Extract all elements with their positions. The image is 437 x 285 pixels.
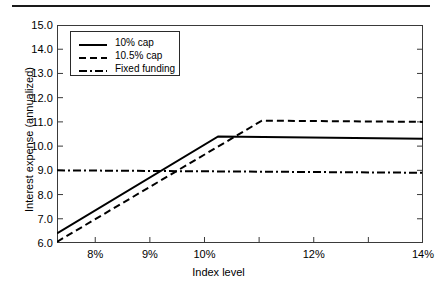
x-axis-title: Index level <box>0 267 437 278</box>
y-axis-title: Interest expense (annualized) <box>24 40 35 240</box>
legend-line-swatch <box>78 50 108 62</box>
x-axis-tick-labels: 8%9%10%12%14% <box>0 0 437 285</box>
legend-entry: Fixed funding <box>71 62 179 75</box>
x-tick-label: 8% <box>87 249 103 260</box>
legend-entry: 10% cap <box>71 36 179 49</box>
x-tick-label: 14% <box>412 249 434 260</box>
legend-entry: 10.5% cap <box>71 49 179 62</box>
legend-line-swatch <box>78 63 108 75</box>
x-tick-label: 10% <box>193 249 215 260</box>
legend-line-swatch <box>78 37 108 49</box>
chart-figure: 6.07.08.09.010.011.012.013.014.015.0 8%9… <box>0 0 437 285</box>
x-tick-label: 12% <box>303 249 325 260</box>
x-tick-label: 9% <box>142 249 158 260</box>
legend-label: 10% cap <box>115 38 154 48</box>
chart-legend: 10% cap10.5% capFixed funding <box>70 31 180 76</box>
legend-label: Fixed funding <box>115 64 175 74</box>
legend-label: 10.5% cap <box>115 51 162 61</box>
